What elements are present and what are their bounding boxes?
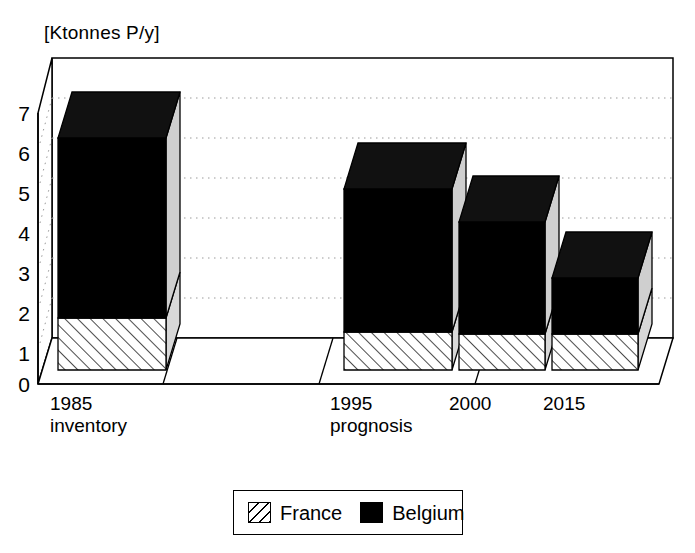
hatched-square-icon bbox=[248, 502, 271, 523]
y-tick-0: 0 bbox=[4, 374, 30, 395]
bar-2000-belgium-top bbox=[459, 176, 559, 222]
y-tick-1: 1 bbox=[4, 343, 30, 364]
x-tick-1985: 1985 inventory bbox=[50, 393, 127, 437]
bar-2015-france-front bbox=[552, 334, 638, 370]
y-tick-2: 2 bbox=[4, 303, 30, 324]
y-tick-7: 7 bbox=[4, 103, 30, 124]
bar-1985 bbox=[58, 92, 180, 370]
x-tick-2015-year: 2015 bbox=[543, 393, 585, 414]
plot-area bbox=[0, 0, 695, 553]
bar-1985-belgium-front bbox=[58, 138, 166, 318]
x-tick-2000-year: 2000 bbox=[449, 393, 491, 414]
bar-1995-belgium-front bbox=[344, 189, 452, 332]
black-square-icon bbox=[360, 502, 383, 523]
legend-label-france: France bbox=[280, 503, 342, 523]
x-tick-1985-year: 1985 bbox=[50, 393, 92, 414]
y-tick-4: 4 bbox=[4, 223, 30, 244]
legend: France Belgium bbox=[233, 490, 463, 535]
bar-1995-belgium-top bbox=[344, 143, 466, 189]
y-tick-6: 6 bbox=[4, 143, 30, 164]
x-tick-2000: 2000 bbox=[449, 393, 491, 415]
y-tick-3: 3 bbox=[4, 263, 30, 284]
x-tick-1995-sublabel: prognosis bbox=[330, 415, 412, 437]
x-tick-1995: 1995 prognosis bbox=[330, 393, 412, 437]
bar-2015-belgium-top bbox=[552, 232, 652, 278]
x-tick-2015: 2015 bbox=[543, 393, 585, 415]
x-tick-1995-year: 1995 bbox=[330, 393, 372, 414]
legend-label-belgium: Belgium bbox=[392, 503, 464, 523]
bar-2000-france-front bbox=[459, 334, 545, 370]
bar-2015-belgium-front bbox=[552, 278, 638, 334]
bar-1985-belgium-top bbox=[58, 92, 180, 138]
bar-2015 bbox=[552, 232, 652, 370]
bar-1995-france-front bbox=[344, 332, 452, 370]
bar-1995 bbox=[344, 143, 466, 370]
chart-canvas: [Ktonnes P/y] bbox=[0, 0, 695, 553]
bar-2000-belgium-front bbox=[459, 222, 545, 334]
y-tick-5: 5 bbox=[4, 183, 30, 204]
x-tick-1985-sublabel: inventory bbox=[50, 415, 127, 437]
bar-1985-france-front bbox=[58, 318, 166, 370]
bar-2000 bbox=[459, 176, 559, 370]
